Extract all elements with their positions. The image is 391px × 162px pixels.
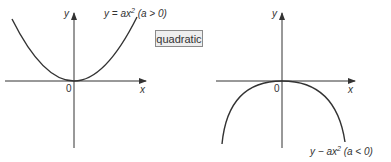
y-axis-label: y	[271, 8, 278, 19]
equation-label: y = ax2 (a > 0)	[103, 7, 167, 19]
origin-label: 0	[66, 83, 72, 94]
diagram-canvas: y 0 x y = ax2 (a > 0) y 0 x y − ax2 (a <…	[0, 0, 391, 162]
parabola-down	[222, 81, 345, 144]
equation-condition: (a > 0)	[135, 8, 167, 19]
x-axis-label: x	[347, 84, 354, 95]
equation-condition: (a < 0)	[341, 146, 373, 157]
graph-negative: y 0 x y − ax2 (a < 0)	[216, 8, 373, 157]
equation-lhs: y − ax	[309, 146, 338, 157]
origin-label: 0	[274, 83, 280, 94]
x-axis-label: x	[139, 84, 146, 95]
y-axis-label: y	[63, 8, 70, 19]
equation-label: y − ax2 (a < 0)	[309, 145, 373, 157]
equation-lhs: y = ax	[103, 8, 132, 19]
quadratic-button[interactable]: quadratic	[155, 30, 203, 47]
graph-positive: y 0 x y = ax2 (a > 0)	[5, 7, 167, 148]
